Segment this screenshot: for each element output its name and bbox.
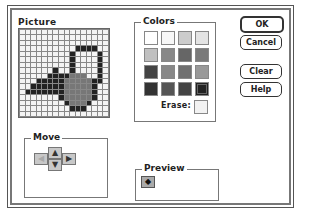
pixel-cell[interactable]: [98, 79, 103, 83]
pixel-cell[interactable]: [48, 90, 53, 94]
pixel-cell[interactable]: [37, 63, 42, 67]
color-swatch[interactable]: [144, 31, 158, 45]
pixel-cell[interactable]: [31, 112, 36, 116]
pixel-cell[interactable]: [76, 74, 81, 78]
pixel-cell[interactable]: [81, 106, 86, 110]
pixel-cell[interactable]: [76, 41, 81, 45]
erase-color-swatch[interactable]: [194, 100, 208, 114]
pixel-cell[interactable]: [26, 101, 31, 105]
pixel-cell[interactable]: [92, 79, 97, 83]
pixel-cell[interactable]: [81, 46, 86, 50]
pixel-cell[interactable]: [37, 35, 42, 39]
pixel-cell[interactable]: [65, 52, 70, 56]
pixel-cell[interactable]: [48, 84, 53, 88]
help-button[interactable]: Help: [240, 82, 282, 97]
pixel-cell[interactable]: [98, 57, 103, 61]
pixel-cell[interactable]: [87, 101, 92, 105]
pixel-cell[interactable]: [76, 30, 81, 34]
pixel-cell[interactable]: [81, 90, 86, 94]
pixel-cell[interactable]: [70, 57, 75, 61]
pixel-cell[interactable]: [87, 52, 92, 56]
pixel-cell[interactable]: [37, 112, 42, 116]
color-swatch[interactable]: [195, 31, 209, 45]
pixel-cell[interactable]: [76, 84, 81, 88]
pixel-cell[interactable]: [37, 41, 42, 45]
pixel-cell[interactable]: [98, 90, 103, 94]
pixel-cell[interactable]: [42, 46, 47, 50]
pixel-cell[interactable]: [48, 79, 53, 83]
pixel-cell[interactable]: [65, 35, 70, 39]
pixel-cell[interactable]: [26, 57, 31, 61]
pixel-cell[interactable]: [87, 63, 92, 67]
pixel-cell[interactable]: [37, 79, 42, 83]
pixel-cell[interactable]: [70, 90, 75, 94]
pixel-cell[interactable]: [87, 74, 92, 78]
pixel-cell[interactable]: [98, 52, 103, 56]
pixel-cell[interactable]: [65, 57, 70, 61]
pixel-cell[interactable]: [59, 35, 64, 39]
pixel-cell[interactable]: [65, 63, 70, 67]
pixel-cell[interactable]: [81, 101, 86, 105]
pixel-cell[interactable]: [92, 63, 97, 67]
pixel-cell[interactable]: [59, 52, 64, 56]
pixel-cell[interactable]: [98, 101, 103, 105]
pixel-cell[interactable]: [65, 41, 70, 45]
pixel-cell[interactable]: [81, 84, 86, 88]
pixel-cell[interactable]: [59, 101, 64, 105]
pixel-cell[interactable]: [42, 79, 47, 83]
pixel-cell[interactable]: [59, 30, 64, 34]
pixel-cell[interactable]: [98, 106, 103, 110]
pixel-cell[interactable]: [70, 95, 75, 99]
pixel-cell[interactable]: [92, 101, 97, 105]
pixel-cell[interactable]: [59, 84, 64, 88]
pixel-cell[interactable]: [20, 106, 25, 110]
pixel-cell[interactable]: [70, 74, 75, 78]
pixel-cell[interactable]: [42, 68, 47, 72]
pixel-cell[interactable]: [31, 35, 36, 39]
color-swatch[interactable]: [195, 65, 209, 79]
color-swatch[interactable]: [178, 82, 192, 96]
pixel-cell[interactable]: [42, 35, 47, 39]
pixel-cell[interactable]: [31, 57, 36, 61]
pixel-cell[interactable]: [70, 63, 75, 67]
pixel-cell[interactable]: [31, 101, 36, 105]
pixel-cell[interactable]: [37, 74, 42, 78]
pixel-cell[interactable]: [26, 90, 31, 94]
pixel-cell[interactable]: [20, 35, 25, 39]
pixel-cell[interactable]: [59, 106, 64, 110]
color-swatch[interactable]: [195, 82, 209, 96]
pixel-cell[interactable]: [92, 95, 97, 99]
color-swatch[interactable]: [161, 65, 175, 79]
color-swatch[interactable]: [161, 82, 175, 96]
pixel-cell[interactable]: [98, 41, 103, 45]
pixel-cell[interactable]: [76, 95, 81, 99]
pixel-cell[interactable]: [48, 112, 53, 116]
pixel-cell[interactable]: [92, 112, 97, 116]
pixel-cell[interactable]: [87, 41, 92, 45]
pixel-cell[interactable]: [87, 57, 92, 61]
pixel-cell[interactable]: [53, 52, 58, 56]
pixel-cell[interactable]: [103, 112, 108, 116]
color-swatch[interactable]: [161, 48, 175, 62]
pixel-cell[interactable]: [20, 101, 25, 105]
pixel-cell[interactable]: [20, 112, 25, 116]
pixel-cell[interactable]: [92, 52, 97, 56]
pixel-cell[interactable]: [103, 68, 108, 72]
pixel-cell[interactable]: [87, 35, 92, 39]
pixel-cell[interactable]: [37, 46, 42, 50]
pixel-cell[interactable]: [76, 90, 81, 94]
pixel-cell[interactable]: [92, 30, 97, 34]
pixel-cell[interactable]: [76, 52, 81, 56]
pixel-cell[interactable]: [26, 95, 31, 99]
pixel-cell[interactable]: [76, 101, 81, 105]
pixel-cell[interactable]: [65, 79, 70, 83]
pixel-cell[interactable]: [37, 52, 42, 56]
pixel-cell[interactable]: [65, 74, 70, 78]
pixel-cell[interactable]: [26, 41, 31, 45]
pixel-cell[interactable]: [37, 95, 42, 99]
pixel-cell[interactable]: [70, 106, 75, 110]
pixel-cell[interactable]: [42, 95, 47, 99]
pixel-cell[interactable]: [76, 106, 81, 110]
pixel-cell[interactable]: [70, 112, 75, 116]
pixel-cell[interactable]: [103, 57, 108, 61]
